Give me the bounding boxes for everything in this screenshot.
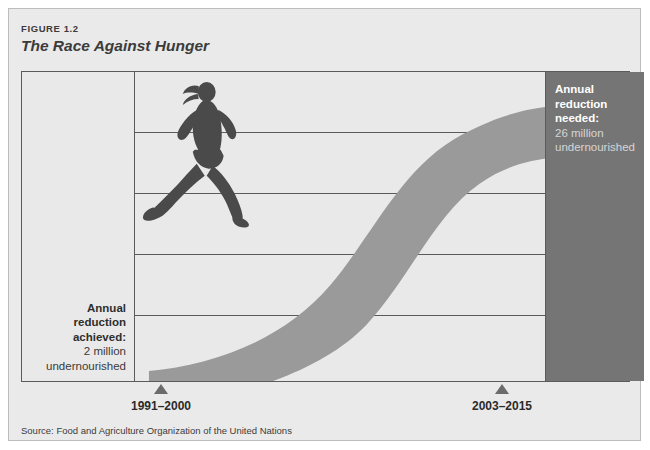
figure-number: FIGURE 1.2 (21, 23, 541, 35)
figure-panel: FIGURE 1.2 The Race Against Hunger Annua… (8, 8, 641, 441)
source-note: Source: Food and Agriculture Organizatio… (21, 425, 292, 436)
annual-reduction-needed-box: Annual reduction needed: 26 million unde… (545, 72, 644, 381)
left-callout-value: 2 million (25, 344, 126, 359)
right-callout-value: 26 million (555, 126, 641, 141)
triangle-up-icon-start (154, 384, 168, 394)
running-woman-silhouette-icon (143, 82, 249, 228)
page-title: The Race Against Hunger (21, 36, 541, 55)
left-callout-line2: reduction (25, 315, 126, 330)
right-callout-line1: Annual (555, 82, 641, 97)
chart-frame: Annual reduction achieved: 2 million und… (21, 71, 630, 382)
title-block: FIGURE 1.2 The Race Against Hunger (21, 23, 541, 55)
right-callout-line2: reduction (555, 97, 641, 112)
annual-reduction-achieved-callout: Annual reduction achieved: 2 million und… (25, 301, 126, 374)
right-callout-line3: needed: (555, 111, 641, 126)
left-callout-line1: Annual (25, 301, 126, 316)
left-callout-line3: achieved: (25, 330, 126, 345)
left-callout-unit: undernourished (25, 359, 126, 374)
axis-label-start: 1991–2000 (101, 399, 221, 413)
annual-reduction-needed-callout: Annual reduction needed: 26 million unde… (555, 82, 641, 155)
right-callout-unit: undernourished (555, 140, 641, 155)
triangle-up-icon-end (495, 384, 509, 394)
plot-area: Annual reduction needed: 26 million unde… (135, 72, 629, 381)
left-label-column: Annual reduction achieved: 2 million und… (22, 72, 135, 381)
axis-label-end: 2003–2015 (442, 399, 562, 413)
